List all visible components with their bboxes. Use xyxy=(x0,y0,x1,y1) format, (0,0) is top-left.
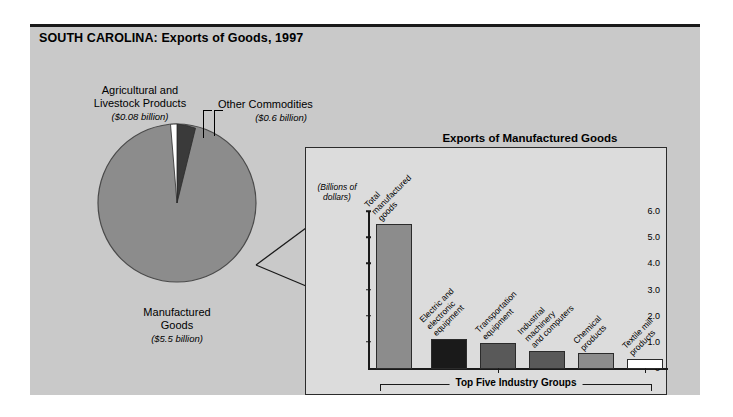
pie-label-other-commodities: Other Commodities ($0.6 billion) xyxy=(218,98,368,124)
bar-label-6: Textile millproducts xyxy=(621,317,659,355)
pie-label-manufactured: Manufactured Goods ($5.5 billion) xyxy=(96,306,258,345)
y-tick-label: 3.0 xyxy=(626,285,660,295)
y-tick-mark xyxy=(366,236,371,238)
pie-label-agricultural-line2: Livestock Products xyxy=(94,97,186,109)
bar-1 xyxy=(376,224,412,369)
bar-plot-area: 01.02.03.04.05.06.0 Totalmanufacturedgoo… xyxy=(330,205,660,375)
x-tick-mark xyxy=(498,368,499,373)
bar-2 xyxy=(431,339,467,369)
pie-chart-svg xyxy=(96,122,258,284)
bracket-label: Top Five Industry Groups xyxy=(450,377,583,388)
bar-label-2: Electric andelectronicequipment xyxy=(418,287,466,335)
pie-label-other-line1: Other Commodities xyxy=(218,98,313,110)
y-axis-caption-line1: (Billions of xyxy=(317,182,356,192)
bar-3 xyxy=(480,343,516,369)
callout-connector xyxy=(250,180,310,300)
y-tick-label: 5.0 xyxy=(626,232,660,242)
y-tick-mark xyxy=(366,341,371,343)
bar-5 xyxy=(578,353,614,369)
pie-label-agricultural: Agricultural and Livestock Products ($0.… xyxy=(60,84,220,123)
pie-label-other-amount: ($0.6 billion) xyxy=(218,111,344,124)
pie-label-manufactured-line2: Goods xyxy=(161,319,193,331)
pie-label-agricultural-amount: ($0.08 billion) xyxy=(60,110,220,123)
y-axis-caption: (Billions of dollars) xyxy=(309,182,365,202)
bar-4 xyxy=(529,351,565,369)
y-tick-label: 4.0 xyxy=(626,258,660,268)
y-tick-label: 6.0 xyxy=(626,206,660,216)
bracket-tick-right xyxy=(651,384,652,391)
pie-label-manufactured-amount: ($5.5 billion) xyxy=(96,332,258,345)
y-axis-caption-line2: dollars) xyxy=(323,192,351,202)
y-tick-mark xyxy=(366,263,371,265)
bracket-tick-left xyxy=(380,384,381,391)
bar-label-3: Transportationequipment xyxy=(474,290,523,339)
pie-chart xyxy=(96,122,258,284)
x-axis-line xyxy=(368,368,668,370)
bar-label-5: Chemicalproducts xyxy=(572,314,607,349)
figure: SOUTH CAROLINA: Exports of Goods, 1997 A… xyxy=(0,0,733,417)
pie-label-agricultural-line1: Agricultural and xyxy=(102,84,178,96)
pie-label-manufactured-line1: Manufactured xyxy=(143,306,210,318)
y-tick-mark xyxy=(366,315,371,317)
bar-chart-title: Exports of Manufactured Goods xyxy=(380,132,680,144)
bar-label-4: Industrialmachineryand computers xyxy=(516,290,573,347)
x-tick-mark xyxy=(645,368,646,373)
industry-group-bracket: Top Five Industry Groups xyxy=(380,378,652,390)
page-title: SOUTH CAROLINA: Exports of Goods, 1997 xyxy=(39,31,303,45)
title-rule xyxy=(30,24,700,27)
y-tick-mark xyxy=(366,289,371,291)
